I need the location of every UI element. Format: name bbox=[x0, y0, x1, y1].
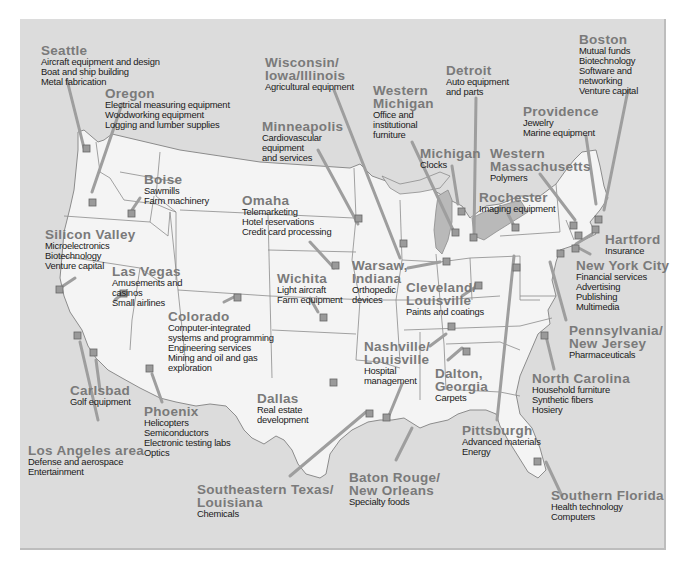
region-label-nashville-louisville: Nashville/ Louisville Hospital managemen… bbox=[364, 340, 430, 386]
region-label-detroit: Detroit Auto equipment and parts bbox=[446, 64, 509, 97]
region-label-western-michigan: Western Michigan Office and institutiona… bbox=[373, 84, 434, 140]
region-label-southeastern-texas-louisiana: Southeastern Texas/ Louisiana Chemicals bbox=[197, 483, 334, 519]
region-label-warsaw-indiana: Warsaw, Indiana Orthopedic devices bbox=[352, 259, 408, 305]
region-label-western-massachusetts: Western Massachusetts Polymers bbox=[490, 147, 591, 183]
region-label-pittsburgh: Pittsburgh Advanced materials Energy bbox=[462, 424, 541, 457]
region-label-dalton-georgia: Dalton, Georgia Carpets bbox=[435, 367, 488, 403]
region-label-los-angeles-area: Los Angeles area Defense and aerospace E… bbox=[28, 444, 144, 477]
region-label-boise: Boise Sawmills Farm machinery bbox=[144, 173, 209, 206]
region-label-wichita: Wichita Light aircraft Farm equipment bbox=[277, 272, 342, 305]
region-label-cleveland-louisville: Cleveland/ Louisville Paints and coating… bbox=[406, 281, 484, 317]
region-label-boston: Boston Mutual funds Biotechnology Softwa… bbox=[579, 33, 638, 96]
region-label-colorado: Colorado Computer-integrated systems and… bbox=[168, 310, 274, 373]
region-label-michigan: Michigan Clocks bbox=[420, 147, 481, 170]
region-label-phoenix: Phoenix Helicopters Semiconductors Elect… bbox=[144, 405, 231, 458]
region-label-providence: Providence Jewelry Marine equipment bbox=[523, 105, 599, 138]
region-label-southern-florida: Southern Florida Health technology Compu… bbox=[551, 489, 664, 522]
region-label-seattle: Seattle Aircraft equipment and design Bo… bbox=[41, 44, 160, 87]
region-label-wisconsin-iowa-illinois: Wisconsin/ Iowa/Illinois Agricultural eq… bbox=[265, 56, 354, 92]
region-label-oregon: Oregon Electrical measuring equipment Wo… bbox=[105, 87, 230, 130]
region-label-hartford: Hartford Insurance bbox=[605, 233, 661, 256]
region-label-rochester: Rochester Imaging equipment bbox=[479, 191, 555, 214]
region-label-pennsylvania-new-jersey: Pennsylvania/ New Jersey Pharmaceuticals bbox=[569, 324, 663, 360]
region-label-omaha: Omaha Telemarketing Hotel reservations C… bbox=[242, 194, 331, 237]
region-label-minneapolis: Minneapolis Cardiovascular equipment and… bbox=[262, 120, 343, 163]
region-label-north-carolina: North Carolina Household furniture Synth… bbox=[532, 372, 630, 415]
region-label-carlsbad: Carlsbad Golf equipment bbox=[70, 384, 131, 407]
region-label-baton-rouge-new-orleans: Baton Rouge/ New Orleans Specialty foods bbox=[349, 471, 440, 507]
region-label-las-vegas: Las Vegas Amusements and casinos Small a… bbox=[112, 265, 182, 308]
region-label-dallas: Dallas Real estate development bbox=[257, 392, 308, 425]
region-label-new-york-city: New York City Financial services Adverti… bbox=[576, 259, 669, 312]
